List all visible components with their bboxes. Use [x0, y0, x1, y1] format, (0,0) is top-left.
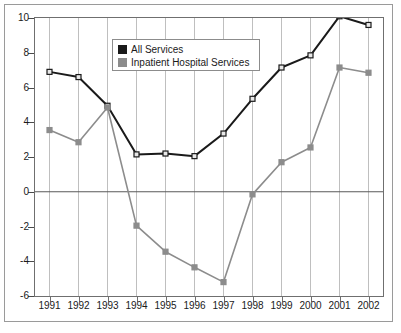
series-line-inpatient-hospital-services	[50, 68, 369, 283]
data-point-marker	[279, 65, 284, 70]
data-point-marker	[134, 223, 139, 228]
data-point-marker	[279, 160, 284, 165]
y-axis-tick-label: 0	[5, 187, 29, 197]
legend-label-inpatient-hospital-services: Inpatient Hospital Services	[131, 57, 249, 68]
data-point-marker	[221, 131, 226, 136]
legend-swatch-inpatient-hospital-services	[118, 58, 127, 67]
x-axis-tick-label: 2002	[352, 300, 386, 312]
data-point-marker	[308, 53, 313, 58]
y-axis-tick-label: 6	[5, 83, 29, 93]
data-point-marker	[337, 18, 342, 19]
data-point-marker	[192, 265, 197, 270]
chart-figure: 1086420-2-4-6 19911992199319941995199619…	[0, 0, 401, 333]
plot-wrapper: 1086420-2-4-6 19911992199319941995199619…	[0, 0, 401, 333]
data-point-marker	[76, 75, 81, 80]
data-point-marker	[163, 151, 168, 156]
data-point-marker	[47, 128, 52, 133]
data-point-marker	[134, 152, 139, 157]
data-point-marker	[337, 65, 342, 70]
data-point-marker	[308, 145, 313, 150]
legend-item-all-services: All Services	[118, 43, 255, 56]
data-point-marker	[105, 105, 110, 110]
y-axis-tick-label: -4	[5, 256, 29, 266]
legend-label-all-services: All Services	[131, 44, 183, 55]
data-point-marker	[221, 280, 226, 285]
y-axis-tick-label: 4	[5, 117, 29, 127]
data-point-marker	[366, 22, 371, 27]
y-axis-tick-label: -2	[5, 222, 29, 232]
y-axis-tick-label: 2	[5, 152, 29, 162]
y-axis-tick-label: -6	[5, 291, 29, 301]
data-point-marker	[250, 192, 255, 197]
y-axis-tick-label: 8	[5, 48, 29, 58]
data-point-marker	[192, 154, 197, 159]
data-point-marker	[47, 69, 52, 74]
y-axis-tick-label: 10	[5, 13, 29, 23]
data-point-marker	[163, 249, 168, 254]
legend-swatch-all-services	[118, 45, 127, 54]
data-point-marker	[76, 140, 81, 145]
data-point-marker	[250, 96, 255, 101]
legend-item-inpatient-hospital-services: Inpatient Hospital Services	[118, 56, 255, 69]
chart-legend: All Services Inpatient Hospital Services	[112, 39, 260, 71]
data-point-marker	[366, 70, 371, 75]
